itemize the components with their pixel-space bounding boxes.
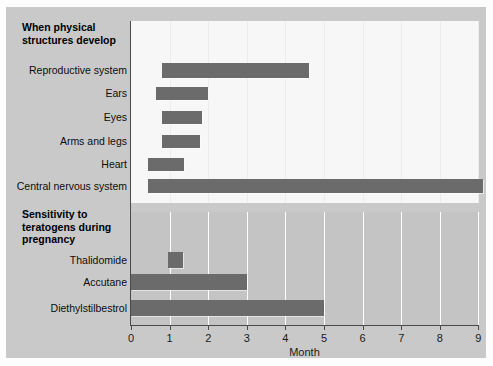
x-tick-7 [401, 325, 402, 330]
figure-border-top [0, 0, 493, 7]
x-tick-label-2: 2 [198, 331, 218, 345]
row-label-structures-4: Heart [0, 158, 127, 170]
row-label-structures-3: Arms and legs [0, 135, 127, 147]
gridline-month-9 [478, 212, 479, 325]
x-tick-label-1: 1 [160, 331, 180, 345]
x-tick-label-7: 7 [391, 331, 411, 345]
x-tick-label-8: 8 [430, 331, 450, 345]
row-label-teratogens-0: Thalidomide [0, 254, 127, 266]
gridline-month-7 [401, 21, 402, 203]
x-tick-3 [247, 325, 248, 330]
figure-border-right [486, 0, 493, 366]
bar-structures-1 [156, 87, 208, 100]
gridline-month-8 [440, 21, 441, 203]
gridline-month-5 [324, 21, 325, 203]
bar-structures-3 [162, 135, 201, 148]
bar-teratogens-1 [131, 274, 247, 290]
x-tick-label-9: 9 [468, 331, 488, 345]
x-tick-4 [285, 325, 286, 330]
row-label-structures-0: Reproductive system [0, 64, 127, 76]
gridline-month-8 [440, 212, 441, 325]
bar-teratogens-0 [168, 252, 183, 268]
x-axis-title: Month [131, 346, 478, 358]
gridline-month-3 [247, 21, 248, 203]
bar-structures-4 [148, 158, 184, 171]
x-tick-label-4: 4 [275, 331, 295, 345]
figure-border-bottom [0, 358, 493, 366]
gridline-month-9 [478, 21, 479, 203]
gridline-month-2 [208, 21, 209, 203]
row-label-teratogens-1: Accutane [0, 276, 127, 288]
heading-sensitivity-line1: Sensitivity to [22, 208, 127, 221]
row-label-teratogens-2: Diethylstilbestrol [0, 302, 127, 314]
x-tick-9 [478, 325, 479, 330]
x-tick-5 [324, 325, 325, 330]
row-label-structures-2: Eyes [0, 111, 127, 123]
x-tick-label-0: 0 [121, 331, 141, 345]
x-tick-label-3: 3 [237, 331, 257, 345]
gridline-month-6 [363, 21, 364, 203]
bar-structures-2 [162, 111, 203, 124]
gridline-month-6 [363, 212, 364, 325]
x-tick-6 [363, 325, 364, 330]
heading-sensitivity-line2: teratogens during [22, 221, 127, 234]
heading-structures-line1: When physical [22, 21, 127, 34]
heading-structures-line2: structures develop [22, 34, 127, 47]
gridline-month-4 [285, 21, 286, 203]
heading-sensitivity-line3: pregnancy [22, 233, 127, 246]
gridline-month-7 [401, 212, 402, 325]
heading-structures: When physical structures develop [22, 21, 127, 46]
x-tick-label-5: 5 [314, 331, 334, 345]
bar-structures-5 [148, 179, 483, 193]
x-tick-8 [440, 325, 441, 330]
bar-teratogens-2 [131, 300, 324, 316]
row-label-structures-5: Central nervous system [0, 180, 127, 192]
bar-structures-0 [162, 63, 309, 78]
x-tick-0 [131, 325, 132, 330]
x-tick-label-6: 6 [353, 331, 373, 345]
x-tick-2 [208, 325, 209, 330]
row-label-structures-1: Ears [0, 87, 127, 99]
x-axis-line [131, 325, 479, 326]
x-tick-1 [170, 325, 171, 330]
chart-figure: When physical structures develop Sensiti… [0, 0, 493, 366]
heading-sensitivity: Sensitivity to teratogens during pregnan… [22, 208, 127, 246]
gridline-month-5 [324, 212, 325, 325]
